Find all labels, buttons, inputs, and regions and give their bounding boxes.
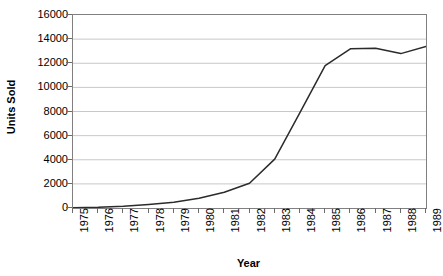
x-axis-tick-mark [425,208,426,213]
x-axis-tick-mark [299,208,300,213]
x-axis-tick-label: 1983 [280,208,292,248]
x-axis-tick-label: 1976 [103,208,115,248]
x-axis-tick-mark [173,208,174,213]
x-axis-tick-mark [97,208,98,213]
x-axis-tick-label: 1981 [229,208,241,248]
x-axis-tick-mark [249,208,250,213]
x-axis-tick-label: 1989 [431,208,443,248]
y-axis-tick-label: 8000 [18,105,68,117]
x-axis-tick-label: 1982 [255,208,267,248]
x-axis-tick-mark [198,208,199,213]
x-axis-tick-mark [375,208,376,213]
x-axis-tick-label: 1984 [305,208,317,248]
y-axis-tick-label: 6000 [18,129,68,141]
y-axis-tick-label: 2000 [18,177,68,189]
y-axis-tick-label: 12000 [18,56,68,68]
x-axis-tick-mark [148,208,149,213]
y-axis-title: Units Sold [3,2,19,212]
x-axis-tick-mark [223,208,224,213]
x-axis-tick-mark [400,208,401,213]
x-axis-tick-label: 1987 [381,208,393,248]
x-axis-tick-mark [324,208,325,213]
x-axis-tick-mark [72,208,73,213]
y-axis-tick-mark [66,62,72,63]
y-axis-tick-labels: 0200040006000800010000120001400016000 [18,8,68,214]
x-axis-tick-mark [122,208,123,213]
x-axis-tick-label: 1977 [128,208,140,248]
plot-svg [73,15,426,208]
x-axis-tick-label: 1988 [406,208,418,248]
y-axis-tick-mark [66,135,72,136]
y-axis-tick-mark [66,111,72,112]
y-axis-tick-label: 16000 [18,8,68,20]
x-axis-tick-label: 1978 [154,208,166,248]
x-axis-tick-mark [349,208,350,213]
y-axis-tick-mark [66,38,72,39]
y-axis-tick-label: 0 [18,201,68,213]
x-axis-tick-label: 1975 [78,208,90,248]
y-axis-tick-mark [66,159,72,160]
y-axis-tick-label: 10000 [18,80,68,92]
x-axis-tick-label: 1980 [204,208,216,248]
x-axis-tick-label: 1979 [179,208,191,248]
y-axis-tick-mark [66,183,72,184]
y-axis-tick-label: 14000 [18,32,68,44]
gridlines [73,39,426,184]
y-axis-tick-label: 4000 [18,153,68,165]
x-axis-tick-mark [274,208,275,213]
y-axis-tick-mark [66,86,72,87]
y-axis-tick-mark [66,14,72,15]
x-axis-tick-label: 1986 [355,208,367,248]
x-axis-tick-label: 1985 [330,208,342,248]
x-axis-title: Year [72,257,425,269]
plot-area [72,14,427,209]
